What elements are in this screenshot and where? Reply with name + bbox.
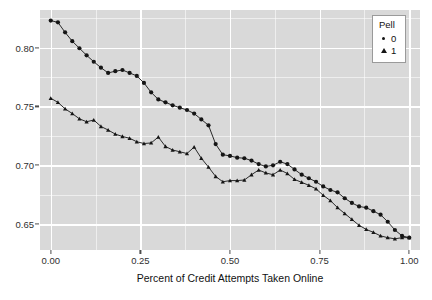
legend-item-label: 1 [391, 46, 396, 56]
data-point [271, 163, 275, 167]
data-point [285, 162, 289, 166]
x-tick-mark [319, 250, 320, 254]
data-point [106, 128, 110, 132]
data-point [120, 68, 124, 72]
legend: Pell 0 1 [372, 15, 406, 63]
data-point [113, 132, 117, 136]
data-point [56, 20, 60, 24]
data-point [199, 117, 203, 121]
data-point [371, 209, 375, 213]
data-point [264, 164, 268, 168]
data-point [343, 196, 347, 200]
x-tick-label: 0.50 [221, 255, 240, 266]
x-tick-label: 1.00 [400, 255, 419, 266]
data-point [171, 148, 175, 152]
data-point [242, 156, 246, 160]
x-tick-mark [140, 250, 141, 254]
data-point [249, 173, 253, 177]
data-point [278, 168, 282, 172]
data-point [163, 100, 167, 104]
data-point [149, 90, 153, 94]
y-tick-label: 0.80 [0, 42, 34, 53]
data-point [221, 153, 225, 157]
data-point [113, 69, 117, 73]
data-point [92, 118, 96, 122]
chart-figure: 0.650.700.750.80 0.000.250.500.751.00 Pe… [0, 0, 432, 300]
y-tick-label: 0.70 [0, 160, 34, 171]
x-tick-label: 0.25 [131, 255, 150, 266]
data-point [70, 39, 74, 43]
data-point [314, 180, 318, 184]
data-point [171, 103, 175, 107]
y-tick-label: 0.75 [0, 101, 34, 112]
data-point [49, 96, 53, 100]
plot-panel [40, 10, 420, 250]
data-point [235, 156, 239, 160]
data-point [63, 30, 67, 34]
series-line [51, 98, 410, 239]
data-point [70, 111, 74, 115]
data-point [206, 123, 210, 127]
data-point [192, 111, 196, 115]
data-point [156, 97, 160, 101]
series-0 [49, 18, 412, 239]
legend-title: Pell [379, 20, 399, 30]
data-point [292, 167, 296, 171]
data-point [300, 173, 304, 177]
series-line [51, 21, 410, 238]
data-point [77, 46, 81, 50]
y-tick-mark [35, 224, 39, 225]
legend-item-label: 0 [391, 34, 396, 44]
data-point [135, 74, 139, 78]
data-point [378, 213, 382, 217]
data-point [257, 162, 261, 166]
legend-item-0[interactable]: 0 [379, 33, 399, 45]
plot-series-layer [40, 10, 420, 250]
y-tick-label: 0.65 [0, 219, 34, 230]
data-point [228, 154, 232, 158]
data-point [328, 188, 332, 192]
data-point [185, 108, 189, 112]
data-point [214, 142, 218, 146]
x-tick-label: 0.75 [310, 255, 329, 266]
circle-marker-icon [379, 34, 388, 43]
data-point [314, 187, 318, 191]
y-tick-mark [35, 47, 39, 48]
y-tick-mark [35, 165, 39, 166]
data-point [99, 66, 103, 70]
data-point [56, 100, 60, 104]
triangle-marker-icon [379, 46, 388, 55]
data-point [321, 184, 325, 188]
data-point [249, 158, 253, 162]
x-tick-label: 0.00 [42, 255, 61, 266]
y-tick-mark [35, 106, 39, 107]
legend-item-1[interactable]: 1 [379, 45, 399, 57]
data-point [357, 204, 361, 208]
data-point [92, 60, 96, 64]
data-point [192, 145, 196, 149]
data-point [156, 135, 160, 139]
data-point [278, 160, 282, 164]
data-point [393, 228, 397, 232]
data-point [378, 234, 382, 238]
series-1 [49, 96, 412, 240]
x-axis-label: Percent of Credit Attempts Taken Online [40, 272, 420, 284]
data-point [386, 220, 390, 224]
data-point [364, 206, 368, 210]
x-tick-mark [229, 250, 230, 254]
x-tick-mark [50, 250, 51, 254]
data-point [257, 168, 261, 172]
data-point [85, 53, 89, 57]
data-point [142, 81, 146, 85]
data-point [285, 171, 289, 175]
data-point [49, 18, 53, 22]
data-point [128, 71, 132, 75]
data-point [178, 106, 182, 110]
data-point [307, 176, 311, 180]
data-point [106, 71, 110, 75]
data-point [335, 190, 339, 194]
data-point [350, 201, 354, 205]
data-point [135, 140, 139, 144]
data-point [364, 227, 368, 231]
x-tick-mark [409, 250, 410, 254]
